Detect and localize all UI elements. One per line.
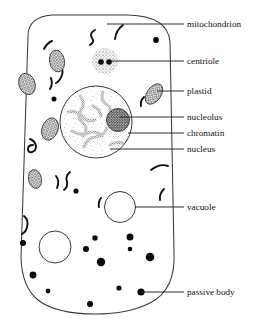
label-text-mitochondrion: mitochondrion — [187, 19, 242, 29]
passive-body-shape — [46, 289, 51, 294]
passive-body-shape — [30, 272, 37, 279]
label-text-nucleus: nucleus — [187, 144, 215, 154]
passive-body-shape — [52, 97, 57, 102]
diagram-canvas: mitochondrioncentrioleplastidnucleolusch… — [0, 0, 258, 321]
passive-body-shape — [116, 285, 121, 290]
label-text-nucleolus: nucleolus — [187, 112, 223, 122]
nucleolus-body — [107, 109, 130, 132]
label-text-plastid: plastid — [187, 86, 212, 96]
passive-body-shape — [127, 234, 134, 241]
passive-body-shape — [153, 37, 159, 43]
cell-diagram-figure: mitochondrioncentrioleplastidnucleolusch… — [0, 0, 258, 321]
passive-body-shape — [73, 188, 78, 193]
passive-body-shape — [146, 253, 155, 262]
label-text-chromatin: chromatin — [187, 128, 225, 138]
passive-body-shape — [87, 301, 93, 307]
centriole-dot — [98, 59, 104, 65]
vacuole-shape — [105, 192, 136, 223]
passive-body-shape — [92, 235, 97, 240]
label-text-centriole: centriole — [187, 56, 219, 66]
label-text-passive-body: passive body — [187, 287, 235, 297]
passive-body-shape — [97, 258, 105, 266]
cell-body — [0, 0, 258, 321]
label-text-vacuole: vacuole — [187, 202, 216, 212]
passive-body-shape — [83, 246, 89, 252]
vacuole-shape — [39, 231, 71, 263]
passive-body-shape — [20, 240, 26, 246]
passive-body-shape — [128, 247, 133, 252]
centriole-dot — [106, 59, 112, 65]
